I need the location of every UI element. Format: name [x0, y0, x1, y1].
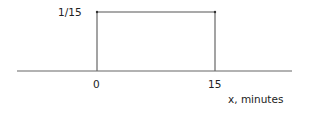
- left-top-point: [96, 11, 98, 13]
- x-tick-15: 15: [208, 78, 221, 90]
- x-axis-label: x, minutes: [228, 93, 283, 105]
- uniform-density-chart: 1/15 0 15 x, minutes: [0, 0, 309, 113]
- x-tick-0: 0: [93, 78, 100, 90]
- y-tick-label: 1/15: [58, 6, 82, 18]
- right-top-point: [214, 11, 216, 13]
